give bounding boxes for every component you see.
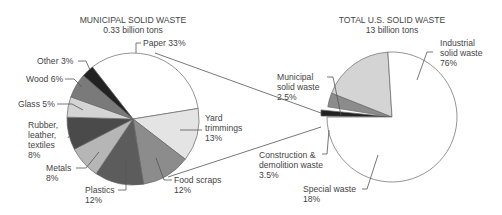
label-wood: Wood 6%: [26, 74, 82, 87]
svg-text:Paper 33%: Paper 33%: [143, 38, 186, 48]
label-paper: Paper 33%: [136, 38, 186, 53]
svg-text:Municipalsolid waste2.5%: Municipalsolid waste2.5%: [277, 72, 320, 102]
right-chart-title: TOTAL U.S. SOLID WASTE: [339, 15, 446, 25]
total-solid-waste-pie: [321, 52, 457, 182]
label-construction-demolition: Construction &demolition waste3.5%: [259, 130, 329, 180]
svg-text:Industrialsolid waste76%: Industrialsolid waste76%: [440, 38, 483, 68]
svg-text:Food scraps12%: Food scraps12%: [174, 175, 221, 195]
svg-text:Other 3%: Other 3%: [37, 56, 74, 66]
svg-text:Plastics12%: Plastics12%: [85, 185, 115, 205]
svg-text:Metals8%: Metals8%: [46, 163, 71, 183]
left-chart-subtitle: 0.33 billion tons: [103, 25, 163, 35]
solid-waste-pie-charts: MUNICIPAL SOLID WASTE 0.33 billion tons …: [0, 0, 502, 215]
svg-text:Special waste18%: Special waste18%: [303, 184, 356, 204]
svg-text:Construction &demolition waste: Construction &demolition waste3.5%: [259, 150, 323, 180]
svg-text:Rubber,leather,textiles8%: Rubber,leather,textiles8%: [28, 120, 58, 160]
label-rubber-leather-textiles: Rubber,leather,textiles8%: [28, 120, 70, 160]
municipal-solid-waste-pie: [67, 53, 199, 185]
svg-text:Glass 5%: Glass 5%: [18, 99, 55, 109]
label-other: Other 3%: [37, 56, 90, 70]
left-chart-title: MUNICIPAL SOLID WASTE: [80, 15, 187, 25]
right-chart-subtitle: 13 billion tons: [366, 25, 419, 35]
svg-text:Yardtrimmings13%: Yardtrimmings13%: [205, 113, 242, 143]
svg-text:Wood 6%: Wood 6%: [26, 74, 63, 84]
